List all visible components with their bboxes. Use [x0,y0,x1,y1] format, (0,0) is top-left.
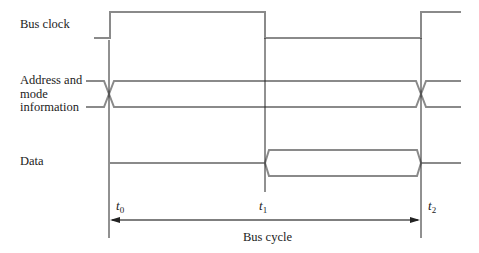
address-mode-label-line-3: information [20,101,82,115]
bus-cycle-label: Bus cycle [243,231,292,245]
address-mode-label: Address and mode information [20,74,82,115]
bus-cycle-arrow [110,217,420,223]
arrowhead-left-icon [110,217,120,223]
address-mode-label-line-2: mode [20,88,82,102]
address-mode-waveform [86,81,461,107]
bus-timing-diagram: Bus clock Address and mode information D… [0,0,479,253]
t2-label: t2 [428,198,436,215]
arrowhead-right-icon [410,217,420,223]
data-waveform [110,150,461,176]
t1-label: t1 [259,198,267,215]
address-mode-label-line-1: Address and [20,74,82,88]
bus-clock-waveform [94,12,461,38]
data-label: Data [20,155,44,169]
t0-label: t0 [116,198,124,215]
bus-clock-label: Bus clock [20,18,70,32]
timing-waveforms [0,0,479,253]
